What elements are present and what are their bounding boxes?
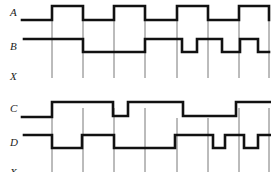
signal-label-x-top: X — [9, 70, 18, 82]
signal-label-d: D — [9, 136, 18, 148]
waveform-a — [22, 6, 269, 20]
signal-label-b: B — [10, 40, 17, 52]
waveform-c — [22, 102, 270, 117]
top-panel-grid-lines — [52, 20, 269, 78]
waveform-d — [24, 135, 270, 148]
signal-label-c: C — [10, 102, 18, 114]
waveform-b — [24, 39, 269, 52]
signal-label-a: A — [9, 6, 17, 18]
signal-label-x-bottom: X — [9, 166, 18, 172]
timing-diagram: A B X C D X — [0, 0, 271, 172]
